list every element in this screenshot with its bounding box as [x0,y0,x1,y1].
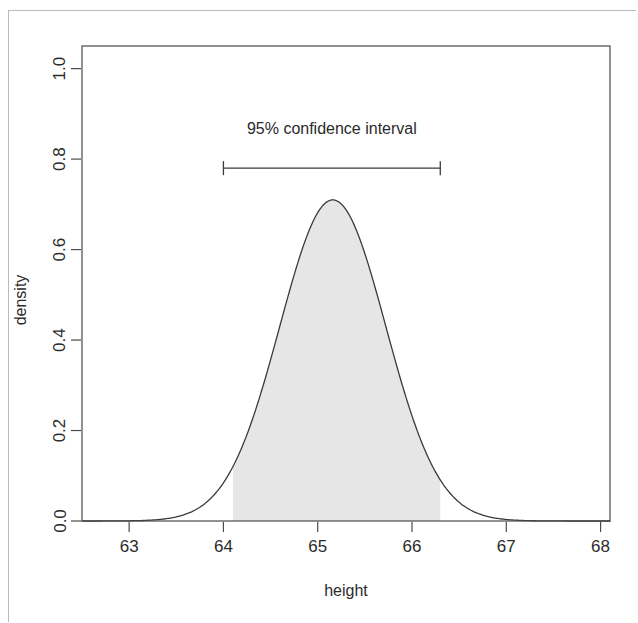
ci-label: 95% confidence interval [247,120,417,137]
figure-page: 636465666768 0.00.20.40.60.81.0 95% conf… [0,0,638,623]
y-tick-label: 0.2 [51,419,70,443]
y-tick-label: 0.6 [51,238,70,262]
x-tick-label: 65 [308,537,327,556]
x-tick-label: 63 [120,537,139,556]
y-tick-label: 0.8 [51,147,70,171]
plot-svg: 636465666768 0.00.20.40.60.81.0 95% conf… [0,0,638,623]
x-tick-label: 66 [403,537,422,556]
x-tick-label: 64 [214,537,233,556]
density-plot: 636465666768 0.00.20.40.60.81.0 95% conf… [0,0,638,623]
y-axis-ticks: 0.00.20.40.60.81.0 [51,57,82,533]
y-axis-title: density [12,275,29,326]
confidence-interval-bar [223,161,440,175]
shaded-confidence-region [233,200,440,521]
x-tick-label: 68 [591,537,610,556]
x-axis-ticks: 636465666768 [120,522,610,556]
y-tick-label: 0.0 [51,509,70,533]
y-tick-label: 1.0 [51,57,70,81]
x-axis-title: height [324,582,368,599]
x-tick-label: 67 [497,537,516,556]
y-tick-label: 0.4 [51,328,70,352]
